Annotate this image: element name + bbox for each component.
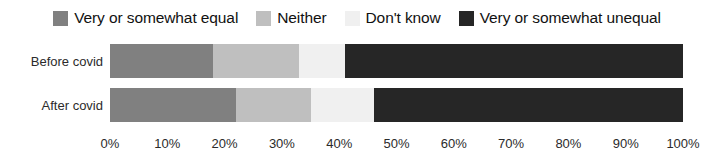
legend-swatch-icon xyxy=(459,11,474,26)
legend-swatch-icon xyxy=(345,11,360,26)
axis-tick-label: 50% xyxy=(383,136,409,151)
bar-segment xyxy=(110,88,236,122)
bar-row: After covid xyxy=(0,88,714,122)
legend-swatch-icon xyxy=(53,11,68,26)
legend-item[interactable]: Very or somewhat equal xyxy=(53,10,238,26)
legend-item-label: Neither xyxy=(277,10,326,26)
category-label: After covid xyxy=(42,88,103,122)
axis-tick-label: 60% xyxy=(441,136,467,151)
bar-segment xyxy=(236,88,310,122)
stacked-bar xyxy=(110,88,683,122)
stacked-bar-chart: Very or somewhat equalNeitherDon't knowV… xyxy=(0,0,714,158)
bar-row: Before covid xyxy=(0,44,714,78)
bar-segment xyxy=(374,88,683,122)
bar-segment xyxy=(345,44,683,78)
bar-segment xyxy=(311,88,374,122)
legend-item[interactable]: Don't know xyxy=(345,10,441,26)
axis-tick-label: 10% xyxy=(154,136,180,151)
bar-segment xyxy=(110,44,213,78)
axis-tick-label: 40% xyxy=(326,136,352,151)
x-axis: 0%10%20%30%40%50%60%70%80%90%100% xyxy=(0,134,714,158)
bar-segment xyxy=(299,44,345,78)
legend-item[interactable]: Very or somewhat unequal xyxy=(459,10,661,26)
axis-tick-label: 30% xyxy=(269,136,295,151)
bar-segment xyxy=(213,44,299,78)
axis-tick-label: 70% xyxy=(498,136,524,151)
legend-item-label: Very or somewhat equal xyxy=(74,10,238,26)
legend-item[interactable]: Neither xyxy=(256,10,326,26)
plot-area: Before covidAfter covid xyxy=(0,38,714,134)
legend-item-label: Don't know xyxy=(366,10,441,26)
axis-tick-label: 20% xyxy=(212,136,238,151)
axis-tick-label: 100% xyxy=(666,136,699,151)
axis-tick-label: 80% xyxy=(555,136,581,151)
category-label: Before covid xyxy=(31,44,103,78)
stacked-bar xyxy=(110,44,683,78)
legend-swatch-icon xyxy=(256,11,271,26)
axis-tick-label: 90% xyxy=(613,136,639,151)
axis-tick-label: 0% xyxy=(101,136,120,151)
legend-item-label: Very or somewhat unequal xyxy=(480,10,661,26)
chart-legend: Very or somewhat equalNeitherDon't knowV… xyxy=(0,0,714,36)
